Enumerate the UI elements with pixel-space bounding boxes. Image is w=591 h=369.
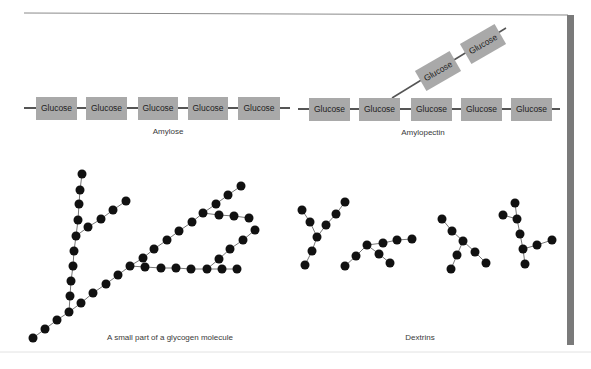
glycogen-label: A small part of a glycogen molecule — [80, 333, 260, 342]
svg-text:Glucose: Glucose — [41, 103, 72, 113]
svg-text:Glucose: Glucose — [364, 104, 395, 114]
dextrins-label: Dextrins — [390, 333, 450, 342]
svg-text:Glucose: Glucose — [142, 103, 173, 113]
glycogen-dots — [29, 170, 260, 343]
glucose-box-branch: Glucose — [460, 24, 506, 64]
svg-text:Glucose: Glucose — [466, 104, 497, 114]
figure: Glucose Glucose Glucose Glucose Glucose … — [0, 0, 591, 369]
amylose-chain: Glucose Glucose Glucose Glucose Glucose — [24, 97, 290, 120]
top-rule — [24, 13, 568, 15]
svg-text:Glucose: Glucose — [516, 104, 547, 114]
amylose-label: Amylose — [138, 127, 198, 136]
svg-text:Glucose: Glucose — [192, 103, 223, 113]
svg-text:Glucose: Glucose — [91, 103, 122, 113]
svg-text:Glucose: Glucose — [416, 104, 447, 114]
amylopectin-label: Amylopectin — [383, 128, 463, 137]
glucose-box-branch: Glucose — [415, 51, 461, 91]
svg-text:Glucose: Glucose — [314, 104, 345, 114]
diagram-canvas: Glucose Glucose Glucose Glucose Glucose … — [0, 0, 591, 369]
side-bar — [567, 15, 574, 345]
dextrins — [298, 198, 557, 274]
amylopectin-chain: Glucose Glucose Glucose Glucose Glucose … — [298, 24, 560, 121]
svg-text:Glucose: Glucose — [243, 103, 274, 113]
